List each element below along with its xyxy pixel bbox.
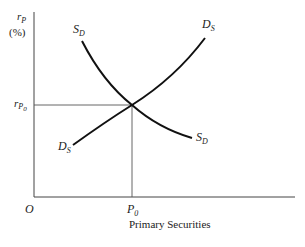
sd-curve (82, 41, 192, 138)
sd-top-label: SD (73, 22, 85, 38)
y-axis-label: rP (17, 10, 26, 25)
x-axis-label: Primary Securities (129, 218, 211, 230)
supply-demand-chart: rP (%) rP0 SD SD DS DS O P0 Primary Secu… (0, 0, 305, 247)
ds-bottom-label: DS (57, 139, 71, 155)
y-axis-unit: (%) (9, 26, 26, 39)
x-tick-label: P0 (126, 202, 138, 218)
origin-label: O (25, 202, 34, 216)
ds-top-label: DS (201, 17, 215, 33)
sd-bottom-label: SD (196, 130, 208, 146)
y-tick-label: rP0 (14, 97, 27, 113)
ds-curve (73, 38, 205, 145)
